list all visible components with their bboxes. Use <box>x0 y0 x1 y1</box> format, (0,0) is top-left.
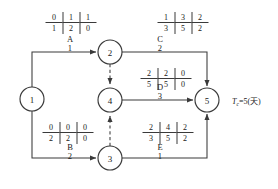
table-A-cell-top-2: 1 <box>80 12 97 23</box>
table-B-cell-top-0: 0 <box>43 122 60 133</box>
edge-A-path <box>32 52 96 87</box>
table-B-cell-bottom-0: 2 <box>43 133 60 144</box>
table-B-cell-top-1: 0 <box>60 122 77 133</box>
node-1-label: 1 <box>30 96 35 105</box>
edge-label-B: B 2 <box>67 143 73 161</box>
table-D-cell-bottom-2: 0 <box>175 79 192 90</box>
node-2-label: 2 <box>108 49 113 58</box>
edge-E-duration: 1 <box>157 152 162 161</box>
table-A-cell-bottom-1: 2 <box>63 23 80 34</box>
table-E-cell-top-0: 2 <box>143 122 160 133</box>
table-E-cell-bottom-0: 3 <box>143 133 160 144</box>
table-D-cell-bottom-0: 5 <box>141 79 158 90</box>
table-A-cell-top-1: 1 <box>63 12 80 23</box>
table-E-cell-bottom-1: 5 <box>160 133 177 144</box>
parameter-table-A: 0 1 1 1 2 0 <box>46 12 97 34</box>
table-C-cell-top-0: 1 <box>158 12 175 23</box>
edge-label-C: C 2 <box>157 35 163 53</box>
duration-value: =5(天) <box>239 97 261 106</box>
edge-A-duration: 1 <box>67 44 73 53</box>
edge-D-duration: 3 <box>157 92 163 101</box>
table-D-cell-top-0: 2 <box>141 68 158 79</box>
node-5-label: 5 <box>205 97 210 106</box>
table-E-cell-top-1: 4 <box>160 122 177 133</box>
table-A-cell-bottom-2: 0 <box>80 23 97 34</box>
node-3-label: 3 <box>108 155 113 164</box>
table-C-cell-bottom-1: 5 <box>175 23 192 34</box>
table-C-cell-bottom-0: 3 <box>158 23 175 34</box>
table-B-cell-top-2: 0 <box>77 122 94 133</box>
parameter-table-C: 1 3 2 3 5 2 <box>158 12 209 34</box>
duration-subscript: c <box>236 101 238 107</box>
node-4-label: 4 <box>108 97 113 106</box>
parameter-table-B: 0 0 0 2 2 0 <box>43 122 94 144</box>
parameter-table-E: 2 4 2 3 5 2 <box>143 122 194 144</box>
table-C-cell-bottom-2: 2 <box>192 23 209 34</box>
table-C-cell-top-1: 3 <box>175 12 192 23</box>
table-C-cell-top-2: 2 <box>192 12 209 23</box>
table-D-cell-top-2: 0 <box>175 68 192 79</box>
table-D-cell-bottom-1: 5 <box>158 79 175 90</box>
edge-label-E: E 1 <box>157 143 162 161</box>
table-D-cell-top-1: 2 <box>158 68 175 79</box>
table-E-cell-top-2: 2 <box>177 122 194 133</box>
table-E-cell-bottom-2: 2 <box>177 133 194 144</box>
project-duration-annotation: Tc=5(天) <box>232 95 261 106</box>
parameter-table-D: 2 2 0 5 5 0 <box>141 68 192 90</box>
table-A-cell-bottom-0: 1 <box>46 23 63 34</box>
table-B-cell-bottom-1: 2 <box>60 133 77 144</box>
network-diagram: 1 2 4 3 5 A 1 C 2 D 3 B 2 E 1 0 1 1 1 2 … <box>0 0 278 189</box>
edge-B-duration: 2 <box>67 152 73 161</box>
edge-label-A: A 1 <box>67 35 73 53</box>
edge-C-duration: 2 <box>157 44 163 53</box>
table-B-cell-bottom-2: 0 <box>77 133 94 144</box>
table-A-cell-top-0: 0 <box>46 12 63 23</box>
